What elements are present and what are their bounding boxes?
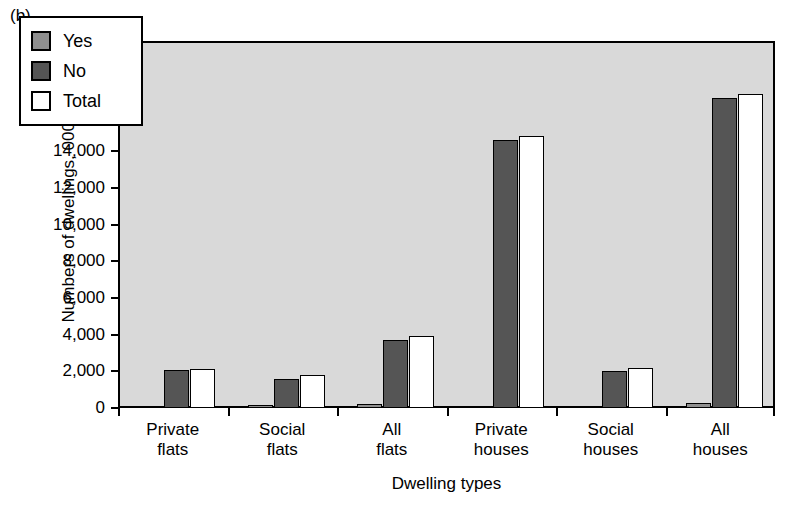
bar-no	[383, 340, 408, 408]
x-category-label-line: Private	[474, 420, 529, 440]
chart-figure: (b) Numbers of dwellings, 000s 02,0004,0…	[0, 0, 789, 509]
x-category-label-line: flats	[146, 440, 199, 460]
x-category-label-line: All	[376, 420, 407, 440]
x-tick-mark	[228, 408, 230, 416]
x-category-label: Privateflats	[146, 420, 199, 460]
y-tick-mark	[111, 187, 118, 189]
x-category-label-line: houses	[583, 440, 638, 460]
x-category-label-line: Social	[259, 420, 305, 440]
bar-yes	[138, 406, 163, 408]
x-category-label: Socialflats	[259, 420, 305, 460]
legend-swatch-no	[31, 61, 51, 81]
bar-total	[409, 336, 434, 408]
bar-total	[738, 94, 763, 408]
y-tick-label: 14,000	[0, 141, 105, 161]
bar-no	[712, 98, 737, 408]
x-category-label-line: All	[693, 420, 748, 440]
x-tick-mark	[666, 408, 668, 416]
y-tick-mark	[111, 407, 118, 409]
x-tick-mark	[773, 408, 775, 416]
legend-item: Total	[31, 86, 131, 116]
plot-inner	[120, 43, 773, 406]
x-category-label-line: Social	[583, 420, 638, 440]
legend-label-total: Total	[63, 92, 101, 110]
y-tick-label: 6,000	[0, 288, 105, 308]
bar-yes	[248, 405, 273, 408]
x-category-label-line: flats	[259, 440, 305, 460]
bar-no	[274, 379, 299, 408]
y-tick-mark	[111, 370, 118, 372]
bar-total	[300, 375, 325, 408]
x-tick-mark	[337, 408, 339, 416]
bar-total	[628, 368, 653, 408]
legend-label-no: No	[63, 62, 86, 80]
x-category-label: Socialhouses	[583, 420, 638, 460]
y-tick-mark	[111, 334, 118, 336]
y-tick-label: 12,000	[0, 178, 105, 198]
y-tick-mark	[111, 224, 118, 226]
x-category-label-line: flats	[376, 440, 407, 460]
x-tick-mark	[118, 408, 120, 416]
bar-no	[493, 140, 518, 408]
legend-swatch-yes	[31, 31, 51, 51]
y-tick-label: 10,000	[0, 215, 105, 235]
x-category-label-line: houses	[693, 440, 748, 460]
y-tick-label: 8,000	[0, 251, 105, 271]
y-tick-label: 4,000	[0, 325, 105, 345]
bar-no	[164, 370, 189, 408]
x-category-label: Allhouses	[693, 420, 748, 460]
legend-swatch-total	[31, 91, 51, 111]
legend-item: Yes	[31, 26, 131, 56]
x-tick-mark	[556, 408, 558, 416]
bar-yes	[467, 406, 492, 408]
plot-area	[118, 41, 775, 408]
x-category-label-line: Private	[146, 420, 199, 440]
x-category-label: Privatehouses	[474, 420, 529, 460]
x-category-label: Allflats	[376, 420, 407, 460]
y-tick-mark	[111, 297, 118, 299]
y-tick-label: 0	[0, 398, 105, 418]
y-tick-label: 2,000	[0, 361, 105, 381]
x-axis-title: Dwelling types	[118, 474, 775, 494]
legend-label-yes: Yes	[63, 32, 92, 50]
bar-yes	[686, 403, 711, 408]
x-category-label-line: houses	[474, 440, 529, 460]
legend-item: No	[31, 56, 131, 86]
y-tick-mark	[111, 260, 118, 262]
bar-no	[602, 371, 627, 408]
y-tick-mark	[111, 150, 118, 152]
x-tick-mark	[447, 408, 449, 416]
bar-yes	[357, 404, 382, 408]
bar-yes	[576, 406, 601, 408]
chart-legend: Yes No Total	[19, 16, 143, 126]
bar-total	[190, 369, 215, 408]
bar-total	[519, 136, 544, 408]
